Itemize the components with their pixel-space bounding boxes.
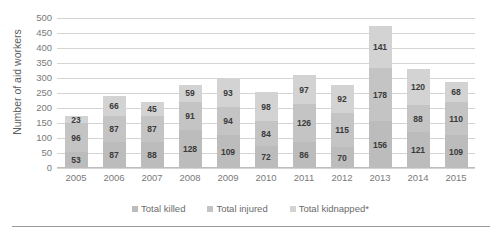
- x-axis-tick-labels: 2005200620072008200920102011201220132014…: [57, 172, 475, 188]
- bar-group-2006[interactable]: 668787: [103, 96, 126, 168]
- legend-label: Total killed: [141, 203, 185, 214]
- bar-segment[interactable]: 70: [331, 147, 354, 168]
- bar-segment[interactable]: 91: [179, 102, 202, 129]
- x-tick-label-2013: 2013: [361, 172, 400, 183]
- bar-segment[interactable]: 45: [141, 102, 164, 116]
- x-tick-label-2014: 2014: [399, 172, 438, 183]
- bar-group-2009[interactable]: 9394109: [217, 79, 240, 168]
- legend-swatch-icon: [290, 206, 296, 212]
- bar-group-2014[interactable]: 12088121: [407, 69, 430, 168]
- x-tick-label-2009: 2009: [209, 172, 248, 183]
- bar-segment[interactable]: 87: [103, 142, 126, 168]
- bar-segment[interactable]: 93: [217, 79, 240, 107]
- y-tick-label-300: 300: [14, 73, 52, 82]
- x-tick-label-2011: 2011: [285, 172, 324, 183]
- bar-segment[interactable]: 68: [445, 82, 468, 102]
- chart-legend: Total killedTotal injuredTotal kidnapped…: [0, 203, 501, 214]
- y-tick-label-200: 200: [14, 103, 52, 112]
- legend-item[interactable]: Total killed: [132, 203, 185, 214]
- bar-segment[interactable]: 86: [293, 142, 316, 168]
- y-tick-label-50: 50: [14, 148, 52, 157]
- y-tick-label-100: 100: [14, 133, 52, 142]
- bar-segment[interactable]: 92: [331, 85, 354, 113]
- x-tick-label-2006: 2006: [95, 172, 134, 183]
- bar-segment[interactable]: 88: [407, 105, 430, 131]
- bar-segment[interactable]: 156: [369, 121, 392, 168]
- legend-label: Total kidnapped*: [299, 203, 369, 214]
- y-tick-label-250: 250: [14, 88, 52, 97]
- y-tick-label-400: 400: [14, 43, 52, 52]
- legend-swatch-icon: [207, 206, 213, 212]
- bar-segment[interactable]: 87: [103, 116, 126, 142]
- x-tick-label-2007: 2007: [133, 172, 172, 183]
- stacked-bar-chart: Number of aid workers 500450400350300250…: [0, 0, 501, 233]
- bar-segment[interactable]: 120: [407, 69, 430, 105]
- y-tick-label-500: 500: [14, 13, 52, 22]
- legend-item[interactable]: Total injured: [207, 203, 267, 214]
- y-axis-tick-labels: 500450400350300250200150100500: [14, 13, 52, 173]
- bar-group-2007[interactable]: 458788: [141, 102, 164, 168]
- bar-segment[interactable]: 128: [179, 130, 202, 168]
- bar-group-2005[interactable]: 239653: [65, 116, 88, 168]
- bar-segment[interactable]: 109: [445, 135, 468, 168]
- bar-group-2015[interactable]: 68110109: [445, 82, 468, 168]
- bar-segment[interactable]: 94: [217, 107, 240, 135]
- legend-label: Total injured: [216, 203, 267, 214]
- bars-layer: 2396536687874587885991128939410998847297…: [57, 18, 475, 168]
- bar-segment[interactable]: 126: [293, 104, 316, 142]
- legend-item[interactable]: Total kidnapped*: [290, 203, 369, 214]
- plot-area: 2396536687874587885991128939410998847297…: [57, 18, 475, 168]
- bar-segment[interactable]: 96: [65, 123, 88, 152]
- bar-segment[interactable]: 23: [65, 116, 88, 123]
- y-tick-label-0: 0: [14, 163, 52, 172]
- bar-segment[interactable]: 66: [103, 96, 126, 116]
- bar-segment[interactable]: 115: [331, 113, 354, 148]
- bar-group-2011[interactable]: 9712686: [293, 75, 316, 168]
- x-tick-label-2005: 2005: [57, 172, 96, 183]
- x-tick-label-2015: 2015: [437, 172, 476, 183]
- bar-segment[interactable]: 141: [369, 26, 392, 68]
- gridline-0: [57, 168, 475, 169]
- x-tick-label-2010: 2010: [247, 172, 286, 183]
- bar-group-2010[interactable]: 988472: [255, 92, 278, 168]
- bar-group-2008[interactable]: 5991128: [179, 85, 202, 168]
- legend-swatch-icon: [132, 206, 138, 212]
- bar-segment[interactable]: 87: [141, 116, 164, 142]
- x-tick-label-2008: 2008: [171, 172, 210, 183]
- bar-group-2012[interactable]: 9211570: [331, 85, 354, 168]
- y-tick-label-350: 350: [14, 58, 52, 67]
- x-tick-label-2012: 2012: [323, 172, 362, 183]
- bar-segment[interactable]: 88: [141, 142, 164, 168]
- footer-divider: [12, 226, 490, 227]
- bar-segment[interactable]: 109: [217, 135, 240, 168]
- bar-segment[interactable]: 72: [255, 146, 278, 168]
- bar-segment[interactable]: 53: [65, 152, 88, 168]
- bar-segment[interactable]: 178: [369, 68, 392, 121]
- y-tick-label-150: 150: [14, 118, 52, 127]
- bar-segment[interactable]: 97: [293, 75, 316, 104]
- bar-segment[interactable]: 121: [407, 132, 430, 168]
- bar-segment[interactable]: 98: [255, 92, 278, 121]
- bar-segment[interactable]: 110: [445, 102, 468, 135]
- bar-segment[interactable]: 59: [179, 85, 202, 103]
- bar-segment[interactable]: 84: [255, 121, 278, 146]
- y-tick-label-450: 450: [14, 28, 52, 37]
- bar-group-2013[interactable]: 141178156: [369, 26, 392, 168]
